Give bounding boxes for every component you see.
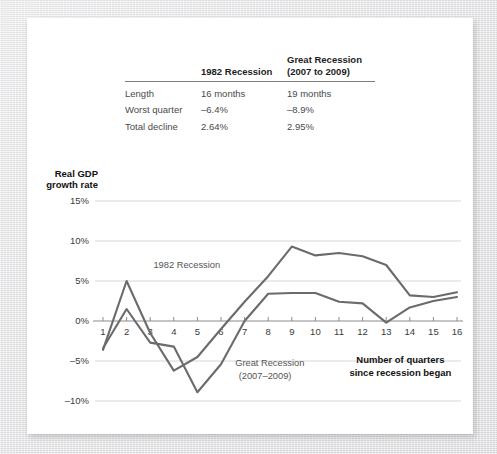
x-tick-label: 2 — [124, 326, 129, 337]
gdp-growth-chart: Real GDP growth rate 15%10%5%0%–5%–10% 1… — [27, 158, 473, 434]
table-header-1982: 1982 Recession — [201, 54, 287, 82]
row-value-great: –8.9% — [287, 99, 375, 116]
y-tick-label: 10% — [70, 235, 90, 246]
chart-y-tick-labels: 15%10%5%0%–5%–10% — [65, 195, 90, 406]
x-tick-label: 16 — [452, 326, 463, 337]
x-tick-label: 14 — [405, 326, 416, 337]
row-label: Length — [125, 82, 201, 99]
chart-annotation: since recession began — [349, 367, 451, 378]
x-tick-label: 15 — [428, 326, 439, 337]
table-header-blank — [125, 54, 201, 82]
x-tick-label: 11 — [334, 326, 344, 337]
table-row: Worst quarter –6.4% –8.9% — [125, 99, 375, 116]
x-tick-label: 10 — [310, 326, 321, 337]
table-row: Total decline 2.64% 2.95% — [125, 115, 375, 132]
x-tick-label: 8 — [266, 326, 271, 337]
row-value-great: 19 months — [287, 82, 375, 99]
y-tick-label: 15% — [70, 195, 90, 206]
chart-annotation: Number of quarters — [356, 354, 444, 365]
chart-annotation: Great Recession — [235, 358, 304, 368]
chart-annotations: 1982 RecessionGreat Recession(2007–2009)… — [153, 260, 451, 380]
y-tick-label: 0% — [75, 315, 89, 326]
chart-annotation: 1982 Recession — [153, 260, 220, 270]
chart-x-axis — [93, 317, 463, 321]
x-tick-label: 9 — [289, 326, 294, 337]
x-tick-label: 5 — [195, 326, 200, 337]
x-tick-label: 7 — [242, 326, 247, 337]
y-axis-title: Real GDP growth rate — [40, 168, 98, 190]
y-tick-label: –5% — [70, 355, 90, 366]
x-tick-label: 13 — [381, 326, 392, 337]
chart-x-tick-labels: 12345678910111213141516 — [100, 326, 462, 337]
page-sheet: 1982 Recession Great Recession (2007 to … — [27, 18, 473, 434]
row-value-1982: 16 months — [201, 82, 287, 99]
row-value-1982: 2.64% — [201, 115, 287, 132]
x-tick-label: 12 — [357, 326, 368, 337]
chart-annotation: (2007–2009) — [239, 371, 292, 381]
chart-canvas: 15%10%5%0%–5%–10% 1234567891011121314151… — [27, 158, 473, 434]
y-tick-label: 5% — [75, 275, 89, 286]
x-tick-label: 4 — [171, 326, 176, 337]
table-header-great-recession: Great Recession (2007 to 2009) — [287, 54, 375, 82]
table-row: Length 16 months 19 months — [125, 82, 375, 99]
row-label: Worst quarter — [125, 99, 201, 116]
row-label: Total decline — [125, 115, 201, 132]
recession-comparison-table: 1982 Recession Great Recession (2007 to … — [125, 54, 375, 132]
table-header-great-recession-line2: (2007 to 2009) — [287, 66, 350, 77]
y-tick-label: –10% — [65, 395, 90, 406]
row-value-great: 2.95% — [287, 115, 375, 132]
row-value-1982: –6.4% — [201, 99, 287, 116]
x-tick-label: 1 — [100, 326, 105, 337]
table-header-great-recession-line1: Great Recession — [287, 54, 362, 65]
